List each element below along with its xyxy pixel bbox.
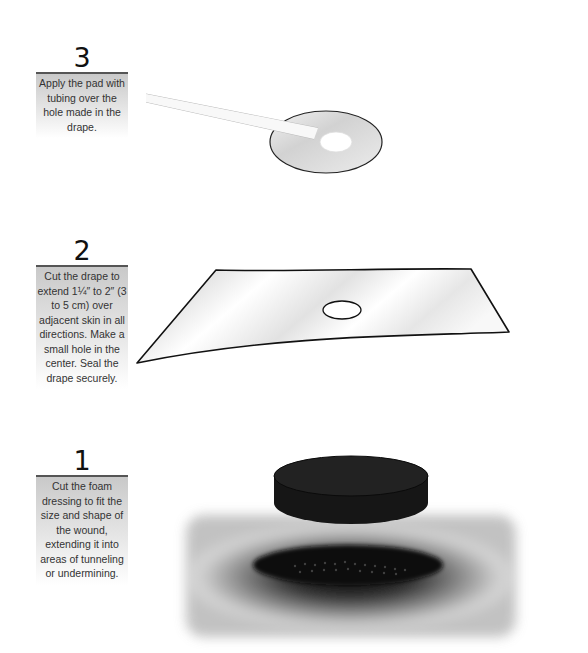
step-2: 2 Cut the drape to extend 1¼″ to 2″ (3 t… bbox=[36, 237, 128, 389]
step-instruction: Apply the pad with tubing over the hole … bbox=[36, 74, 128, 138]
step-number: 3 bbox=[36, 44, 128, 71]
step-1: 1 Cut the foam dressing to fit the size … bbox=[36, 447, 128, 585]
wound-and-foam-illustration bbox=[180, 456, 520, 637]
drape-hole bbox=[323, 301, 361, 319]
step-instruction: Cut the foam dressing to fit the size an… bbox=[36, 477, 128, 585]
drape-illustration bbox=[137, 269, 509, 363]
step-number: 1 bbox=[36, 447, 128, 474]
step-3: 3 Apply the pad with tubing over the hol… bbox=[36, 44, 128, 138]
pad-with-tubing-illustration bbox=[146, 94, 382, 173]
step-instruction: Cut the drape to extend 1¼″ to 2″ (3 to … bbox=[36, 267, 128, 389]
foam-dressing bbox=[274, 456, 428, 496]
tubing-port bbox=[320, 132, 352, 152]
step-number: 2 bbox=[36, 237, 128, 264]
